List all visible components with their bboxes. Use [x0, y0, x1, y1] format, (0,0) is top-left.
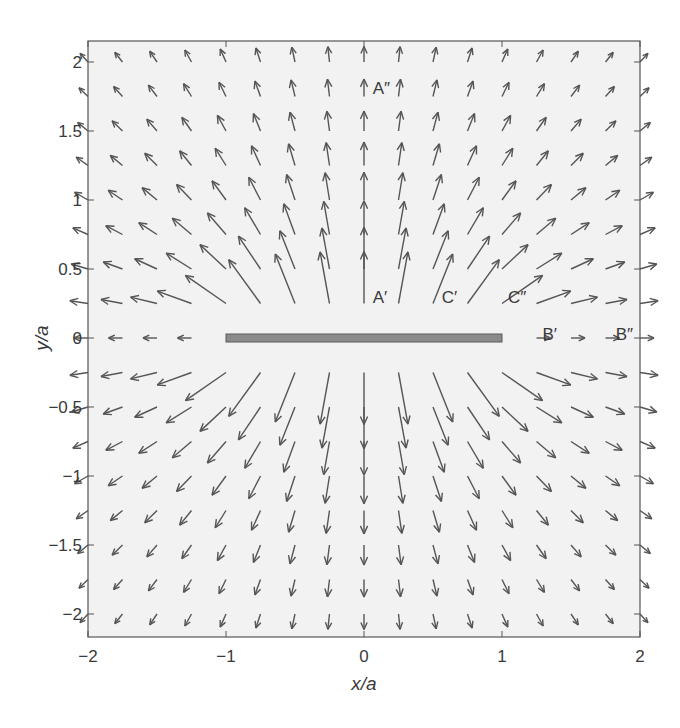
field-arrow [640, 298, 658, 305]
field-arrow [79, 580, 88, 589]
y-tick-label: 1.5 [58, 122, 82, 141]
y-tick-label: −1.5 [48, 536, 82, 555]
point-label: B″ [616, 325, 633, 344]
x-tick-label: 2 [635, 647, 644, 666]
x-tick-label: −1 [216, 647, 235, 666]
y-tick-label: 0 [73, 329, 82, 348]
field-arrow [76, 157, 88, 165]
x-tick-label: 0 [359, 647, 368, 666]
field-arrow [640, 370, 658, 377]
x-tick-label: −2 [78, 647, 97, 666]
point-label: A′ [373, 288, 388, 307]
point-label: C″ [508, 288, 526, 307]
field-arrow [70, 370, 88, 377]
field-arrow [640, 476, 653, 484]
field-arrow [640, 406, 657, 413]
field-arrow [640, 442, 655, 449]
strip [226, 334, 502, 342]
field-arrow [640, 614, 648, 623]
field-arrow [640, 263, 657, 270]
x-axis-label: x/a [350, 673, 376, 694]
point-label: C′ [442, 288, 457, 307]
y-tick-label: −1 [63, 467, 82, 486]
field-arrow [640, 122, 650, 131]
field-arrow [640, 88, 649, 97]
field-arrow [79, 88, 88, 97]
field-arrow [73, 228, 88, 235]
field-arrow [76, 511, 88, 519]
field-arrow [640, 511, 652, 519]
y-tick-label: 1 [73, 191, 82, 210]
y-tick-label: 2 [73, 53, 82, 72]
y-tick-label: −0.5 [48, 398, 82, 417]
field-arrow [640, 228, 655, 235]
field-arrow [640, 53, 648, 62]
field-arrow [640, 192, 653, 200]
y-tick-label: 0.5 [58, 260, 82, 279]
y-axis-label: y/a [31, 325, 52, 352]
field-arrow [640, 545, 650, 554]
point-label: A″ [373, 79, 390, 98]
y-tick-label: −2 [63, 605, 82, 624]
field-arrow [73, 442, 88, 449]
point-label: B′ [543, 325, 558, 344]
quiver-chart: −2−1012−2−1.5−1−0.500.511.52 A″A′C′C″B′B… [0, 0, 680, 728]
field-arrow [70, 298, 88, 305]
field-arrow [640, 335, 654, 341]
field-arrow [640, 157, 652, 165]
field-arrow [640, 580, 649, 589]
x-tick-label: 1 [497, 647, 506, 666]
